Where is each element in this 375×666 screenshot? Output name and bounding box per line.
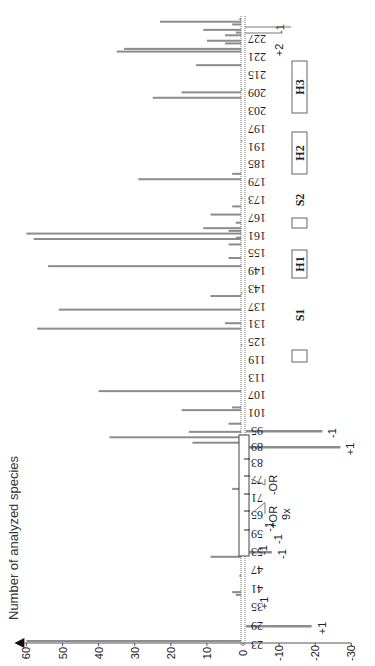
- bar: [225, 322, 241, 324]
- position-tick-label: 155: [248, 246, 266, 260]
- bar: [232, 591, 241, 593]
- position-tick-label: 41: [251, 582, 263, 596]
- value-tick-label: -10: [273, 645, 285, 661]
- bar: [34, 238, 241, 240]
- region-label: S2: [293, 194, 307, 207]
- position-tick-label: 47: [251, 563, 263, 577]
- position-tick-label: 113: [248, 371, 266, 385]
- value-tick-label: 0: [237, 650, 249, 656]
- bar: [117, 51, 241, 53]
- bar: [229, 423, 241, 425]
- bar: [138, 178, 241, 180]
- bar: [48, 265, 241, 267]
- bar: [232, 173, 241, 175]
- region-label: H3: [293, 79, 307, 94]
- annotation-label: +1: [258, 597, 270, 610]
- position-tick-label: 161: [248, 229, 266, 243]
- position-tick-label: 143: [248, 282, 266, 296]
- bar: [225, 34, 241, 36]
- bar: [59, 309, 241, 311]
- bar: [109, 436, 241, 438]
- bar-annotation: +1: [344, 443, 356, 456]
- bar-annotation: +1: [316, 622, 328, 635]
- bar: [229, 257, 241, 259]
- value-tick-label: 10: [201, 647, 213, 659]
- position-tick-label: 71: [251, 491, 263, 505]
- value-tick-label: 40: [93, 647, 105, 659]
- position-tick-label: 131: [248, 317, 266, 331]
- bar: [37, 328, 241, 330]
- annotation-label: -1: [274, 24, 286, 34]
- bar: [229, 230, 241, 232]
- x-ticks-group: 2329354147535965717783899510110711311912…: [248, 32, 266, 652]
- y-axis-title: Number of analyzed species: [6, 455, 21, 620]
- position-tick-label: 221: [248, 50, 266, 64]
- bar: [229, 243, 241, 245]
- value-tick-label: 30: [129, 647, 141, 659]
- bar: [160, 21, 241, 23]
- position-tick-label: 179: [248, 175, 266, 189]
- value-tick-label: 20: [165, 647, 177, 659]
- bar: [203, 227, 241, 229]
- position-tick-label: 137: [248, 300, 266, 314]
- region-label: H2: [293, 145, 307, 160]
- annotation-label: 9x: [280, 508, 292, 520]
- position-tick-label: 101: [248, 406, 266, 420]
- regions-group: S1H1S2H2H3: [292, 61, 307, 362]
- bar: [236, 32, 241, 34]
- bar: [232, 406, 241, 408]
- position-tick-label: 209: [248, 86, 266, 100]
- axis-arrow-icon: [14, 638, 24, 648]
- bar: [26, 640, 241, 642]
- gene-box: [239, 435, 249, 556]
- region-box: [292, 350, 307, 362]
- chart: 6050403020100-10-20-30 23293541475359657…: [0, 0, 375, 666]
- bar: [211, 556, 241, 558]
- position-tick-label: 107: [248, 388, 266, 402]
- bar: [124, 48, 241, 50]
- position-tick-label: 185: [248, 157, 266, 171]
- region-label: H1: [293, 256, 307, 271]
- value-tick-label: -20: [309, 645, 321, 661]
- value-tick-label: -30: [345, 645, 357, 661]
- annotation-label: -OR: [267, 475, 279, 495]
- bar-annotation: -1: [326, 428, 338, 438]
- bar: [225, 42, 241, 44]
- bar: [196, 64, 241, 66]
- position-tick-label: 29: [251, 619, 263, 633]
- bar: [236, 222, 241, 224]
- position-tick-label: 23: [251, 638, 263, 652]
- position-tick-label: 65: [251, 508, 263, 522]
- bar: [211, 214, 241, 216]
- bar: [153, 97, 241, 99]
- position-tick-label: 59: [251, 527, 263, 541]
- region-label: S1: [293, 309, 307, 322]
- bar: [189, 431, 241, 433]
- position-tick-label: 203: [248, 104, 266, 118]
- bar: [232, 205, 241, 207]
- bar: [207, 40, 241, 42]
- position-tick-label: 83: [251, 456, 263, 470]
- bar: [26, 233, 241, 235]
- bar-annotation: -1: [276, 549, 288, 559]
- bar: [192, 442, 241, 444]
- bar: [236, 237, 241, 239]
- bar: [182, 409, 241, 411]
- position-tick-label: 89: [251, 440, 263, 454]
- region-box: [292, 218, 307, 228]
- bar: [203, 29, 241, 31]
- value-tick-label: 60: [20, 647, 32, 659]
- position-tick-label: 125: [248, 335, 266, 349]
- position-tick-label: 173: [248, 193, 266, 207]
- annotation-label: +2: [273, 44, 285, 57]
- annotation-label: -1: [272, 534, 284, 544]
- position-tick-label: 167: [248, 211, 266, 225]
- bar: [211, 295, 241, 297]
- position-tick-label: 227: [248, 32, 266, 46]
- y-ticks-group: 6050403020100-10-20-30: [20, 643, 357, 661]
- annotation-label: +OR: [267, 506, 279, 529]
- position-tick-label: 119: [248, 353, 266, 367]
- position-tick-label: 191: [248, 140, 266, 154]
- position-tick-label: 149: [248, 264, 266, 278]
- bar: [99, 390, 241, 392]
